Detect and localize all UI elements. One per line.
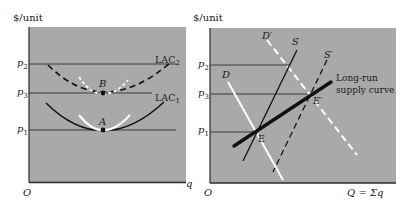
right-p2-label: p2	[198, 58, 209, 72]
point-a	[101, 128, 106, 133]
demand-d-label: D	[221, 69, 230, 80]
point-e-prime-label: E′	[312, 95, 323, 106]
point-e-label: E	[258, 133, 265, 144]
right-panel: $/unit O Q = Σq p2 p3 p1 D D′ S S′ Long-…	[193, 12, 396, 198]
long-run-supply-label-line1: Long-run	[336, 73, 378, 83]
long-run-supply-label-line2: supply curve	[336, 85, 394, 95]
right-p1-label: p1	[198, 124, 209, 138]
left-panel: $/unit O q p2 p3 p1 LAC2 LAC1 B A	[13, 12, 192, 198]
diagram-canvas: $/unit O q p2 p3 p1 LAC2 LAC1 B A $/unit…	[0, 0, 412, 209]
right-x-axis-label: Q = Σq	[347, 187, 383, 198]
left-p1-label: p1	[17, 123, 28, 137]
left-x-axis-label: q	[186, 178, 192, 189]
demand-d-prime-label: D′	[261, 30, 273, 41]
left-p3-label: p3	[17, 86, 28, 100]
left-p2-label: p2	[17, 57, 28, 71]
point-b-label: B	[98, 78, 106, 89]
right-origin-label: O	[204, 187, 212, 198]
right-y-axis-label: $/unit	[193, 12, 223, 23]
point-b	[101, 91, 106, 96]
supply-s-label: S	[292, 36, 299, 47]
left-y-axis-label: $/unit	[13, 12, 43, 23]
right-plot-area	[210, 28, 396, 183]
left-origin-label: O	[23, 187, 31, 198]
left-plot-area	[29, 27, 186, 182]
supply-s-prime-label: S′	[324, 49, 334, 60]
point-a-label: A	[98, 116, 106, 127]
right-p3-label: p3	[198, 87, 209, 101]
